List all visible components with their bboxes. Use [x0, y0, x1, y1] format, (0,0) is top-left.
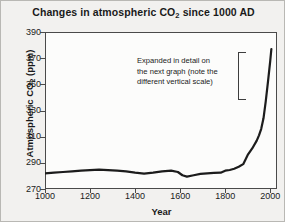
x-axis-tick-label: 2000 [248, 192, 285, 201]
y-axis-tick-mark [40, 58, 45, 59]
x-axis-tick-mark [225, 189, 226, 193]
x-axis-tick-mark [180, 189, 181, 193]
chart-title-subscript: 2 [175, 11, 179, 20]
annotation-line: Expanded in detail on [137, 56, 233, 67]
annotation-text: Expanded in detail onthe next graph (not… [137, 56, 233, 88]
y-axis-tick-label: 370 [5, 54, 41, 63]
y-axis-label-pre: Atmospheric CO [24, 82, 35, 157]
y-axis-tick-mark [40, 137, 45, 138]
y-axis-tick-mark [40, 32, 45, 33]
annotation-line: different vertical scale) [137, 77, 233, 88]
y-axis-tick-mark [40, 163, 45, 164]
annotation-bracket-icon [238, 52, 246, 100]
x-axis-tick-label: 1000 [23, 192, 67, 201]
x-axis-tick-mark [135, 189, 136, 193]
y-axis-tick-label: 310 [5, 132, 41, 141]
y-axis-tick-mark [40, 84, 45, 85]
x-axis-tick-label: 1800 [203, 192, 247, 201]
y-axis-tick-label: 330 [5, 106, 41, 115]
y-axis-tick-label: 290 [5, 158, 41, 167]
chart-title: Changes in atmospheric CO2 since 1000 AD [1, 6, 285, 18]
x-axis-tick-mark [90, 189, 91, 193]
chart-title-post: since 1000 AD [180, 6, 255, 18]
x-axis-tick-label: 1200 [68, 192, 112, 201]
y-axis-tick-label: 350 [5, 80, 41, 89]
x-axis-tick-mark [45, 189, 46, 193]
y-axis-label: Atmospheric CO2 (ppm) [24, 29, 35, 179]
x-axis-tick-label: 1400 [113, 192, 157, 201]
chart-title-pre: Changes in atmospheric CO [32, 6, 175, 18]
x-axis-tick-label: 1600 [158, 192, 202, 201]
y-axis-tick-label: 390 [5, 28, 41, 37]
co2-chart-figure: Changes in atmospheric CO2 since 1000 AD… [0, 0, 285, 222]
annotation-line: the next graph (note the [137, 67, 233, 78]
x-axis-label: Year [45, 206, 278, 217]
x-axis-tick-mark [270, 189, 271, 193]
y-axis-tick-mark [40, 111, 45, 112]
